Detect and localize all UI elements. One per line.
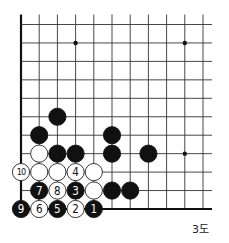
move-number: 8: [54, 184, 61, 198]
white-stone-8: 8: [49, 182, 66, 199]
move-number: 7: [36, 184, 43, 198]
black-stone: [122, 182, 139, 199]
move-number: 3: [72, 184, 79, 198]
white-stone: [31, 145, 48, 162]
black-stone: [103, 145, 120, 162]
move-number: 10: [17, 167, 26, 177]
black-stone: [140, 145, 157, 162]
move-number: 5: [54, 202, 61, 216]
black-stone-3: 3: [67, 182, 84, 199]
diagram-caption: 3도: [192, 220, 209, 236]
stones: 10478396521: [12, 108, 157, 217]
black-stone: [67, 145, 84, 162]
go-board: 10478396521: [0, 0, 229, 243]
star-point-icon: [73, 41, 77, 45]
white-stone-6: 6: [31, 200, 48, 217]
black-stone: [31, 127, 48, 144]
black-stone: [103, 127, 120, 144]
move-number: 9: [18, 202, 25, 216]
move-number: 2: [72, 202, 79, 216]
black-stone-7: 7: [31, 182, 48, 199]
white-stone: [85, 182, 102, 199]
black-stone-1: 1: [85, 200, 102, 217]
move-number: 4: [72, 165, 79, 179]
star-point-icon: [183, 41, 187, 45]
star-point-icon: [183, 151, 187, 155]
white-stone: [49, 164, 66, 181]
white-stone: [85, 164, 102, 181]
white-stone-4: 4: [67, 164, 84, 181]
black-stone: [103, 182, 120, 199]
black-stone-5: 5: [49, 200, 66, 217]
white-stone-10: 10: [12, 164, 29, 181]
white-stone: [31, 164, 48, 181]
black-stone: [49, 145, 66, 162]
move-number: 6: [36, 202, 43, 216]
move-number: 1: [91, 202, 98, 216]
black-stone-9: 9: [12, 200, 29, 217]
white-stone-2: 2: [67, 200, 84, 217]
black-stone: [49, 108, 66, 125]
